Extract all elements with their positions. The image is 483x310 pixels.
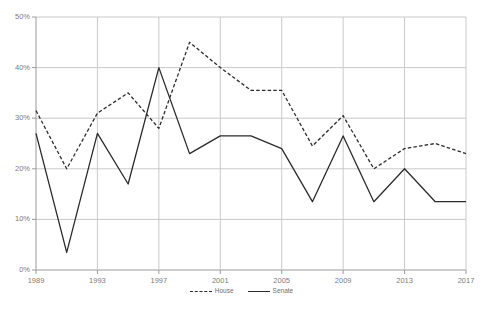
legend-label-senate: Senate bbox=[273, 288, 294, 295]
y-tick-label: 20% bbox=[2, 165, 30, 173]
legend-swatch-senate-icon bbox=[248, 291, 270, 292]
legend-item-senate: Senate bbox=[248, 288, 294, 295]
y-tick-label: 30% bbox=[2, 114, 30, 122]
x-tick-label: 2017 bbox=[446, 277, 483, 285]
line-chart: 0%10%20%30%40%50% 1989199319972001200520… bbox=[0, 0, 483, 310]
chart-legend: House Senate bbox=[0, 288, 483, 295]
x-tick-label: 2013 bbox=[385, 277, 425, 285]
y-tick-label: 40% bbox=[2, 64, 30, 72]
x-tick-label: 2001 bbox=[200, 277, 240, 285]
y-tick-label: 10% bbox=[2, 215, 30, 223]
series-line-senate bbox=[36, 68, 466, 253]
chart-plot-area bbox=[0, 0, 483, 310]
x-tick-label: 1989 bbox=[16, 277, 56, 285]
y-tick-label: 0% bbox=[2, 266, 30, 274]
x-tick-label: 1993 bbox=[77, 277, 117, 285]
y-tick-label: 50% bbox=[2, 13, 30, 21]
series-line-house bbox=[36, 42, 466, 169]
x-tick-label: 2009 bbox=[323, 277, 363, 285]
legend-item-house: House bbox=[190, 288, 234, 295]
x-tick-label: 2005 bbox=[262, 277, 302, 285]
x-tick-label: 1997 bbox=[139, 277, 179, 285]
legend-label-house: House bbox=[215, 288, 234, 295]
legend-swatch-house-icon bbox=[190, 291, 212, 292]
